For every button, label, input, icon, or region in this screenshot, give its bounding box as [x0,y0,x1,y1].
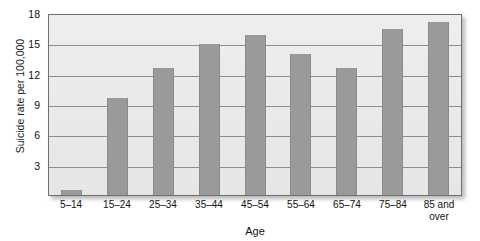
bar[interactable] [245,35,266,195]
plot-area [48,14,462,196]
x-axis-tick-label: 85 andover [416,199,462,223]
bar[interactable] [61,190,82,195]
y-axis-tick-label: 3 [34,160,40,172]
y-axis-tick-labels: 369121518 [0,0,44,196]
x-axis-tick-label: 55–64 [278,199,324,223]
x-axis-tick-label: 5–14 [48,199,94,223]
y-axis-tick-label: 18 [28,8,40,20]
bar-slot [141,15,187,195]
bar-slot [369,15,415,195]
bar-slot [95,15,141,195]
y-axis-tick-label: 15 [28,38,40,50]
bar[interactable] [290,54,311,195]
bar[interactable] [382,29,403,195]
bar-chart: Suicide rate per 100,000 369121518 5–141… [0,0,480,241]
x-axis-tick-label-line: 35–44 [186,199,232,211]
x-axis-tick-label: 35–44 [186,199,232,223]
x-axis-tick-label-line: over [416,211,462,223]
x-axis-tick-labels: 5–1415–2425–3435–4445–5455–6465–7475–848… [48,199,462,223]
x-axis-tick-label-line: 55–64 [278,199,324,211]
y-axis-tick-label: 9 [34,99,40,111]
y-axis-tick-label: 12 [28,69,40,81]
x-axis-tick-label: 65–74 [324,199,370,223]
bar-slot [278,15,324,195]
bar-slot [324,15,370,195]
bar[interactable] [428,22,449,195]
x-axis-title: Age [48,225,462,237]
x-axis-tick-label: 75–84 [370,199,416,223]
bar[interactable] [107,98,128,195]
y-axis-tick-label: 6 [34,129,40,141]
bar[interactable] [153,68,174,195]
bar-slot [49,15,95,195]
x-axis-tick-label-line: 65–74 [324,199,370,211]
x-axis-tick-label-line: 45–54 [232,199,278,211]
bar[interactable] [199,44,220,195]
x-axis-tick-label: 15–24 [94,199,140,223]
bar[interactable] [336,68,357,195]
bar-slot [232,15,278,195]
x-axis-tick-label-line: 25–34 [140,199,186,211]
x-axis-tick-label-line: 85 and [416,199,462,211]
x-axis-tick-label-line: 5–14 [48,199,94,211]
x-axis-tick-label-line: 15–24 [94,199,140,211]
x-axis-tick-label: 25–34 [140,199,186,223]
x-axis-tick-label-line: 75–84 [370,199,416,211]
bar-slot [415,15,461,195]
bar-slot [186,15,232,195]
x-axis-tick-label: 45–54 [232,199,278,223]
bar-series [49,15,461,195]
